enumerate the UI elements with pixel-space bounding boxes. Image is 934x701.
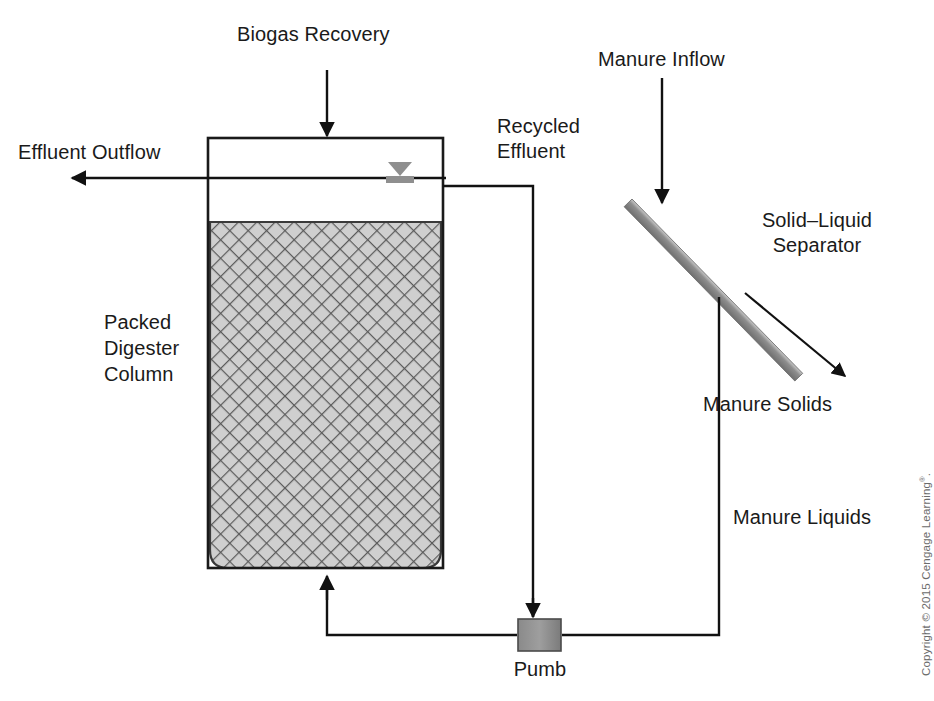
pump-box	[518, 619, 561, 651]
copyright-notice: Copyright © 2015 Cengage Learning®.	[918, 473, 932, 676]
label-manure-inflow: Manure Inflow	[598, 47, 725, 72]
diagram-canvas: Biogas Recovery Effluent Outflow Recycle…	[0, 0, 934, 701]
label-effluent-outflow: Effluent Outflow	[18, 140, 160, 165]
label-recycled-effluent-line1: Recycled	[497, 114, 580, 139]
water-level-indicator-icon	[386, 162, 414, 183]
label-packed-digester-column-line3: Column	[104, 362, 174, 387]
copyright-suffix: .	[920, 473, 932, 476]
label-manure-liquids: Manure Liquids	[733, 505, 871, 530]
label-manure-solids: Manure Solids	[703, 392, 832, 417]
label-biogas-recovery: Biogas Recovery	[237, 22, 390, 47]
registered-trademark-mark: ®	[918, 476, 927, 482]
label-pump: Pumb	[490, 657, 590, 682]
pump-discharge-path	[327, 576, 517, 635]
label-solid-liquid-separator-line2: Separator	[722, 233, 912, 258]
recycled-effluent-path	[443, 186, 533, 617]
label-packed-digester-column-line1: Packed	[104, 310, 171, 335]
label-packed-digester-column-line2: Digester	[104, 336, 179, 361]
label-solid-liquid-separator-line1: Solid–Liquid	[722, 208, 912, 233]
label-recycled-effluent-line2: Effluent	[497, 139, 565, 164]
copyright-text: Copyright © 2015 Cengage Learning	[920, 482, 932, 676]
manure-liquids-path	[562, 297, 719, 635]
packed-bed	[210, 222, 441, 568]
